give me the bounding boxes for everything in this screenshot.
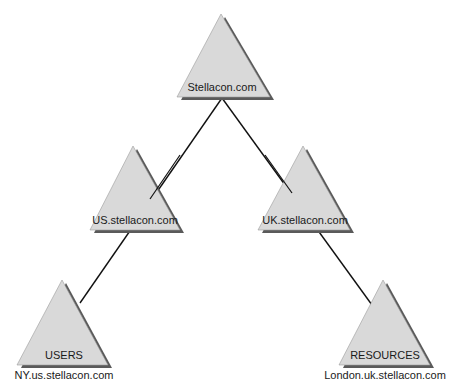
node-label-us: US.stellacon.com (92, 214, 178, 226)
node-label-users: USERS (45, 349, 83, 361)
node-caption-ny: NY.us.stellacon.com (15, 369, 114, 381)
domain-tree-diagram (0, 0, 458, 391)
node-label-uk: UK.stellacon.com (262, 214, 348, 226)
node-label-root: Stellacon.com (187, 81, 256, 93)
node-caption-london: London.uk.stellacon.com (324, 369, 446, 381)
node-label-resources: RESOURCES (350, 349, 420, 361)
